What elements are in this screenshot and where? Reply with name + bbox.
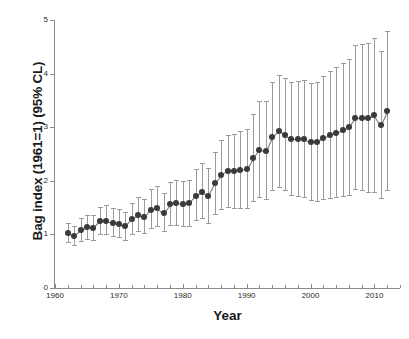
error-bar-cap [379,198,384,199]
error-bar-cap [309,200,314,201]
error-bar-cap [136,197,141,198]
error-bar-cap [213,214,218,215]
y-tick [50,181,54,182]
error-bar-cap [315,201,320,202]
data-point-marker [231,168,237,174]
error-bar-cap [130,234,135,235]
error-bar-cap [360,190,365,191]
error-bar-cap [181,181,186,182]
error-bar-cap [162,231,167,232]
error-bar-cap [283,190,288,191]
error-bar-cap [98,207,103,208]
error-bar-cap [341,63,346,64]
data-point-marker [295,136,301,142]
error-bar-cap [142,199,147,200]
error-bar-cap [213,152,218,153]
data-point-marker [333,130,339,136]
data-point-marker [193,193,199,199]
error-bar-cap [187,226,192,227]
error-bar-cap [321,76,326,77]
error-bar-cap [257,197,262,198]
data-point-marker [359,115,365,121]
data-point-marker [110,220,116,226]
error-bar-cap [245,129,250,130]
error-bar-cap [226,135,231,136]
error-bar-cap [226,207,231,208]
error-bar-cap [309,83,314,84]
error-bar-cap [104,234,109,235]
error-bar-cap [111,208,116,209]
y-tick [50,74,54,75]
error-bar-cap [283,78,288,79]
error-bar-cap [366,43,371,44]
error-bar-cap [181,226,186,227]
x-axis-line [55,288,400,289]
error-bar-cap [136,231,141,232]
error-bar-cap [66,242,71,243]
error-bar-cap [341,196,346,197]
error-bar-cap [206,223,211,224]
error-bar-cap [385,31,390,32]
x-tick-label: 1960 [40,291,70,300]
y-tick [50,127,54,128]
data-point-marker [225,168,231,174]
data-point-marker [78,227,84,233]
error-bar-cap [277,187,282,188]
error-bar-cap [277,75,282,76]
error-bar-cap [174,180,179,181]
error-bar-cap [123,240,128,241]
error-bar-cap [328,198,333,199]
data-point-marker [378,122,384,128]
error-bar-cap [264,101,269,102]
error-bar-cap [270,190,275,191]
error-bar-cap [111,236,116,237]
error-bar-cap [85,215,90,216]
data-point-marker [154,205,160,211]
data-point-marker [308,139,314,145]
data-point-marker [365,115,371,121]
x-tick-label: 1990 [232,291,262,300]
error-bar-cap [174,225,179,226]
data-point-marker [65,230,71,236]
error-bar-cap [302,197,307,198]
error-bar-cap [238,131,243,132]
error-bar-cap [104,205,109,206]
error-bar-cap [353,45,358,46]
error-bar-cap [200,163,205,164]
error-bar-cap [232,134,237,135]
error-bar-cap [219,140,224,141]
error-bar-cap [315,82,320,83]
error-bar-cap [149,189,154,190]
error-bar-cap [206,168,211,169]
y-tick-label: 3 [36,122,48,131]
error-bar-cap [149,228,154,229]
data-point-marker [199,189,205,195]
error-bar-cap [296,196,301,197]
y-tick-label: 2 [36,176,48,185]
y-tick [50,234,54,235]
x-tick-label: 1980 [168,291,198,300]
error-bar-cap [302,80,307,81]
error-bar-cap [334,67,339,68]
error-bar-cap [219,209,224,210]
chart-figure: Bag index (1961=1) (95% CL) Year 012345 … [0,0,409,339]
error-bar-cap [238,208,243,209]
error-bar-cap [117,237,122,238]
error-bar-cap [98,234,103,235]
x-tick-label: 2000 [296,291,326,300]
error-bar-cap [232,208,237,209]
y-tick [50,288,54,289]
y-tick-label: 5 [36,15,48,24]
error-bar-cap [251,114,256,115]
data-point-marker [244,166,250,172]
error-bar-cap [289,195,294,196]
error-bar-cap [264,199,269,200]
data-point-marker [352,115,358,121]
error-bar-cap [296,81,301,82]
x-tick-minor [400,285,401,288]
error-bar-cap [289,82,294,83]
error-bar-cap [123,212,128,213]
error-bar-cap [168,225,173,226]
data-point-marker [97,218,103,224]
error-bar-cap [72,226,77,227]
